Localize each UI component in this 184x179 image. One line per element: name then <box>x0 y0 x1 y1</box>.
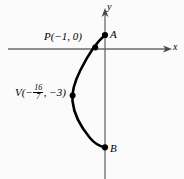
point-b-label: B <box>110 143 117 154</box>
point-v-dot <box>70 93 76 99</box>
x-axis-label: x <box>173 42 177 52</box>
point-a-label: A <box>110 29 117 40</box>
parabola-curve <box>72 35 105 148</box>
point-p-dot <box>92 45 98 51</box>
math-figure-parabola: y x A B P(−1, 0) V(− 16 7 , −3) <box>0 0 184 179</box>
y-axis-label: y <box>107 2 111 12</box>
fraction-sixteen-sevenths: 16 7 <box>33 84 43 102</box>
point-v-coordinate-label: V(− 16 7 , −3) <box>15 84 66 102</box>
point-a-dot <box>102 32 108 38</box>
point-v-label-prefix: V(− <box>15 87 33 98</box>
point-b-dot <box>102 144 108 150</box>
point-p-coordinate-label: P(−1, 0) <box>44 31 82 42</box>
point-v-label-suffix: , −3) <box>44 87 66 98</box>
fraction-denominator: 7 <box>35 93 41 101</box>
